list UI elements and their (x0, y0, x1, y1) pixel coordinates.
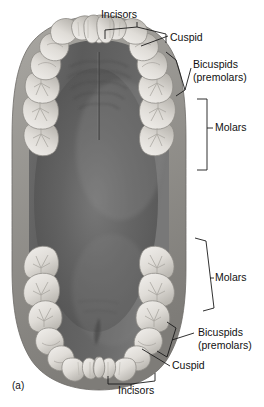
tooth-lower-central-incisor-b (94, 357, 105, 378)
tooth-lower-molar-1 (28, 301, 62, 333)
tooth-lower-molar-1-r (136, 301, 170, 333)
label-upper-incisors: Incisors (101, 8, 137, 20)
upper-molar-group-left (23, 71, 60, 155)
label-upper-bicuspids-sub: (premolars) (193, 71, 247, 83)
label-upper-bicuspids: Bicuspids (193, 58, 238, 70)
label-lower-molars: Molars (215, 271, 247, 283)
lower-molar-group-left (24, 246, 62, 332)
label-upper-cuspid: Cuspid (170, 31, 203, 43)
label-lower-bicuspids-sub: (premolars) (198, 339, 252, 351)
label-upper-molars: Molars (215, 121, 247, 133)
dental-arch-illustration: Incisors Cuspid Bicuspids (premolars) Mo… (0, 0, 264, 407)
lower-molars-bracket (195, 238, 214, 311)
label-lower-cuspid: Cuspid (172, 359, 205, 371)
label-lower-incisors: Incisors (118, 384, 154, 396)
label-lower-bicuspids: Bicuspids (198, 326, 243, 338)
dental-arch-figure: Incisors Cuspid Bicuspids (premolars) Mo… (0, 0, 264, 407)
panel-label: (a) (12, 380, 24, 391)
lower-molar-group-right (136, 246, 174, 332)
upper-molars-bracket (197, 99, 213, 170)
upper-molar-group-right (138, 71, 175, 155)
